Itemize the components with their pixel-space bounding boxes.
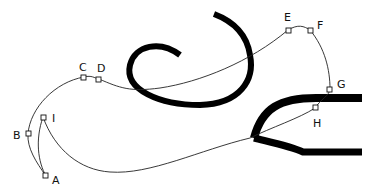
label-E: E — [284, 11, 291, 24]
label-B: B — [13, 129, 21, 142]
label-I: I — [52, 112, 55, 125]
fork-stroke-upper — [254, 98, 362, 138]
bezier-diagram: A B C D E F G H I — [0, 0, 374, 191]
spiral-stroke — [129, 14, 251, 105]
label-H: H — [313, 117, 321, 130]
anchor-H[interactable] — [313, 105, 318, 110]
label-F: F — [317, 19, 323, 32]
label-C: C — [79, 61, 87, 74]
label-G: G — [337, 78, 346, 91]
anchor-G[interactable] — [327, 87, 332, 92]
label-A: A — [52, 174, 60, 187]
anchor-B[interactable] — [26, 131, 31, 136]
fork-stroke-lower — [254, 138, 362, 152]
anchor-D[interactable] — [96, 77, 101, 82]
anchor-F[interactable] — [308, 28, 313, 33]
anchor-I[interactable] — [41, 115, 46, 120]
anchor-E[interactable] — [286, 28, 291, 33]
anchor-C[interactable] — [81, 75, 86, 80]
anchor-A[interactable] — [43, 173, 48, 178]
label-D: D — [97, 62, 105, 75]
